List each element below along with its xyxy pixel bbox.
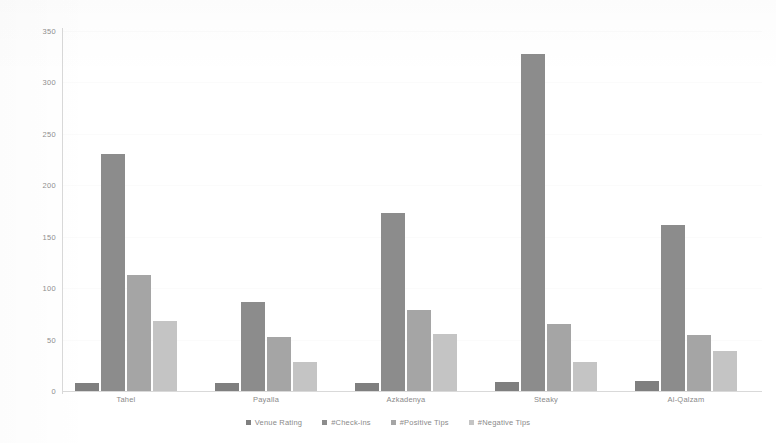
bar[interactable] [495, 382, 519, 391]
bar[interactable] [101, 154, 125, 391]
y-tick-label: 50 [47, 336, 56, 345]
bar[interactable] [153, 321, 177, 391]
bar[interactable] [521, 54, 545, 391]
category-label: Payalla [215, 395, 317, 404]
bar-chart: 350 300 250 200 150 100 50 0 TahelPayall… [0, 0, 776, 443]
bars [75, 31, 177, 391]
x-axis-line [62, 391, 762, 392]
legend-label: #Check-ins [331, 418, 371, 427]
bars [215, 31, 317, 391]
legend-label: #Negative Tips [478, 418, 530, 427]
legend-label: Venue Rating [255, 418, 302, 427]
legend-swatch-icon [391, 420, 396, 425]
category-label: Al-Qalzam [635, 395, 737, 404]
legend-item[interactable]: #Check-ins [322, 418, 371, 427]
legend-swatch-icon [246, 420, 251, 425]
category-label: Steaky [495, 395, 597, 404]
bar[interactable] [573, 362, 597, 391]
legend-swatch-icon [469, 420, 474, 425]
bar[interactable] [75, 383, 99, 391]
legend-item[interactable]: Venue Rating [246, 418, 302, 427]
legend-item[interactable]: #Positive Tips [391, 418, 449, 427]
bars [635, 31, 737, 391]
y-tick-label: 200 [43, 181, 56, 190]
bar[interactable] [215, 383, 239, 391]
bar[interactable] [661, 225, 685, 391]
bar[interactable] [635, 381, 659, 391]
y-tick-label: 100 [43, 284, 56, 293]
bar[interactable] [407, 310, 431, 391]
bar-group: Tahel [75, 31, 177, 391]
bar[interactable] [293, 362, 317, 391]
bars [495, 31, 597, 391]
legend: Venue Rating#Check-ins#Positive Tips#Neg… [0, 418, 776, 427]
bar[interactable] [241, 302, 265, 391]
bar[interactable] [381, 213, 405, 391]
y-axis: 350 300 250 200 150 100 50 0 [0, 0, 56, 443]
legend-label: #Positive Tips [400, 418, 449, 427]
y-tick-label: 0 [52, 387, 56, 396]
legend-swatch-icon [322, 420, 327, 425]
y-tick-label: 300 [43, 78, 56, 87]
y-tick-label: 350 [43, 27, 56, 36]
bar[interactable] [127, 275, 151, 391]
plot-area: TahelPayallaAzkadenyaSteakyAl-Qalzam [62, 31, 762, 391]
bar[interactable] [355, 383, 379, 391]
bars [355, 31, 457, 391]
category-label: Tahel [75, 395, 177, 404]
y-tick-label: 150 [43, 233, 56, 242]
y-tick-label: 250 [43, 130, 56, 139]
bar[interactable] [713, 351, 737, 391]
bar[interactable] [433, 334, 457, 391]
bar[interactable] [687, 335, 711, 391]
legend-item[interactable]: #Negative Tips [469, 418, 530, 427]
bar-group: Azkadenya [355, 31, 457, 391]
category-label: Azkadenya [355, 395, 457, 404]
bar-group: Al-Qalzam [635, 31, 737, 391]
bar[interactable] [547, 324, 571, 391]
bar-group: Payalla [215, 31, 317, 391]
bar[interactable] [267, 337, 291, 392]
bar-group: Steaky [495, 31, 597, 391]
